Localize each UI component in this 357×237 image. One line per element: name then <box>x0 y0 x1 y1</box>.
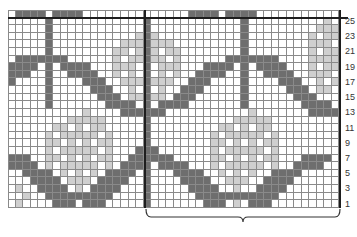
chart-cell <box>287 40 295 48</box>
chart-cell <box>83 200 91 208</box>
chart-cell <box>272 193 280 201</box>
chart-cell <box>272 48 280 56</box>
chart-cell <box>309 155 317 163</box>
chart-cell <box>272 33 280 41</box>
chart-cell <box>76 40 84 48</box>
chart-cell <box>264 139 272 147</box>
chart-cell <box>294 162 302 170</box>
chart-cell <box>189 18 197 26</box>
chart-cell <box>76 48 84 56</box>
chart-cell <box>151 25 159 33</box>
chart-cell <box>317 40 325 48</box>
chart-cell <box>294 185 302 193</box>
chart-cell <box>151 147 159 155</box>
chart-cell <box>16 185 24 193</box>
chart-cell <box>257 48 265 56</box>
chart-cell <box>38 63 46 71</box>
chart-cell <box>219 40 227 48</box>
chart-cell <box>31 78 39 86</box>
chart-cell <box>309 162 317 170</box>
chart-cell <box>272 109 280 117</box>
chart-cell <box>136 101 144 109</box>
chart-cell <box>249 86 257 94</box>
chart-cell <box>113 86 121 94</box>
chart-cell <box>136 177 144 185</box>
chart-cell <box>98 155 106 163</box>
chart-cell <box>166 193 174 201</box>
chart-cell <box>113 177 121 185</box>
chart-cell <box>234 101 242 109</box>
chart-cell <box>309 78 317 86</box>
chart-cell <box>189 94 197 102</box>
chart-cell <box>241 33 249 41</box>
chart-cell <box>46 139 54 147</box>
chart-cell <box>294 109 302 117</box>
chart-cell <box>196 78 204 86</box>
chart-cell <box>181 155 189 163</box>
chart-cell <box>91 117 99 125</box>
chart-cell <box>272 25 280 33</box>
chart-cell <box>196 56 204 64</box>
chart-cell <box>46 132 54 140</box>
chart-cell <box>76 200 84 208</box>
chart-cell <box>174 101 182 109</box>
chart-cell <box>68 40 76 48</box>
chart-cell <box>287 139 295 147</box>
chart-cell <box>83 40 91 48</box>
chart-cell <box>219 185 227 193</box>
chart-cell <box>279 86 287 94</box>
chart-cell <box>159 170 167 178</box>
chart-cell <box>287 170 295 178</box>
chart-cell <box>23 109 31 117</box>
chart-cell <box>287 185 295 193</box>
chart-cell <box>196 25 204 33</box>
chart-cell <box>159 63 167 71</box>
chart-cell <box>38 185 46 193</box>
chart-cell <box>196 170 204 178</box>
chart-cell <box>249 56 257 64</box>
chart-cell <box>166 162 174 170</box>
chart-cell <box>151 40 159 48</box>
chart-cell <box>294 147 302 155</box>
chart-cell <box>68 193 76 201</box>
chart-cell <box>249 139 257 147</box>
chart-cell <box>309 109 317 117</box>
chart-cell <box>91 18 99 26</box>
chart-cell <box>249 18 257 26</box>
chart-cell <box>46 185 54 193</box>
chart-cell <box>106 71 114 79</box>
chart-cell <box>234 25 242 33</box>
chart-cell <box>287 162 295 170</box>
chart-cell <box>249 117 257 125</box>
chart-cell <box>61 185 69 193</box>
chart-cell <box>68 109 76 117</box>
chart-cell <box>106 200 114 208</box>
chart-cell <box>211 63 219 71</box>
chart-cell <box>121 71 129 79</box>
chart-cell <box>151 94 159 102</box>
chart-cell <box>211 155 219 163</box>
chart-cell <box>249 40 257 48</box>
chart-cell <box>174 86 182 94</box>
chart-cell <box>53 86 61 94</box>
chart-cell <box>8 193 16 201</box>
chart-cell <box>279 155 287 163</box>
chart-cell <box>294 63 302 71</box>
chart-cell <box>226 94 234 102</box>
chart-cell <box>302 40 310 48</box>
chart-cell <box>121 101 129 109</box>
chart-cell <box>46 101 54 109</box>
chart-cell <box>226 200 234 208</box>
chart-cell <box>136 147 144 155</box>
chart-cell <box>302 185 310 193</box>
chart-cell <box>309 117 317 125</box>
chart-cell <box>38 18 46 26</box>
chart-cell <box>151 56 159 64</box>
chart-cell <box>234 78 242 86</box>
chart-cell <box>61 139 69 147</box>
chart-cell <box>219 71 227 79</box>
chart-cell <box>53 193 61 201</box>
chart-cell <box>317 177 325 185</box>
chart-cell <box>46 147 54 155</box>
chart-cell <box>38 155 46 163</box>
